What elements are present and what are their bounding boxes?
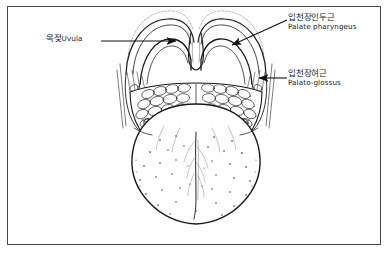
tongue-drawing [117, 11, 275, 224]
label-uvula: 목젖Uvula [46, 33, 83, 43]
label-palatopharyngeus-ko: 입천장인두근 [288, 12, 357, 22]
figure-root: 목젖Uvula 입천장인두근 Palate pharyngeus 입천장혀근 P… [0, 0, 390, 253]
label-uvula-ko: 목젖 [46, 33, 62, 43]
label-palatoglossus: 입천장혀근 Palato-glossus [288, 68, 341, 87]
label-palatoglossus-ko: 입천장혀근 [288, 68, 341, 78]
label-palatopharyngeus-en: Palate pharyngeus [288, 22, 357, 31]
label-palatopharyngeus: 입천장인두근 Palate pharyngeus [288, 12, 357, 31]
label-palatoglossus-en: Palato-glossus [288, 78, 341, 87]
label-uvula-en: Uvula [62, 34, 83, 43]
